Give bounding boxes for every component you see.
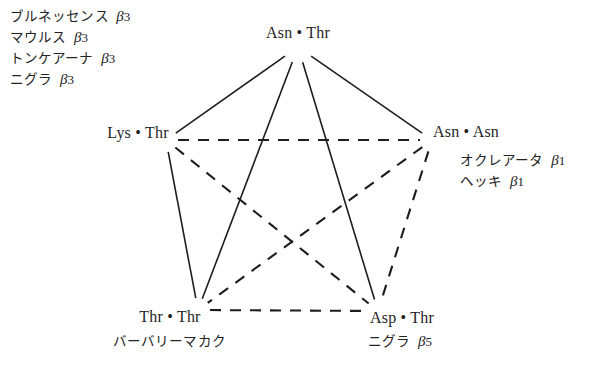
taxon-name: ブルネッセンス <box>10 8 109 24</box>
edge-bottom_left-to-bottom_right <box>210 310 366 311</box>
taxon-name: マウルス <box>10 29 66 45</box>
annotation-line: マウルス β3 <box>10 27 130 48</box>
annotation-line: トンケアーナ β3 <box>10 48 130 69</box>
taxon-name: ニグラ <box>368 333 410 349</box>
edge-left-to-bottom_right <box>175 148 368 304</box>
annotation-line: ニグラ β5 <box>368 331 432 352</box>
beta-number: 3 <box>109 51 116 66</box>
beta-symbol: β <box>116 8 123 24</box>
node-asn-asn: Asn • Asn <box>429 124 503 141</box>
taxon-name: ヘッキ <box>460 173 502 189</box>
beta-symbol: β <box>101 50 108 66</box>
annotation-bottom-left: バーバリーマカク <box>113 331 226 352</box>
edge-right-to-bottom_left <box>208 147 423 303</box>
annotation-top-left: ブルネッセンス β3マウルス β3トンケアーナ β3ニグラ β3 <box>10 6 130 90</box>
annotation-line: ニグラ β3 <box>10 69 130 90</box>
annotation-line: ブルネッセンス β3 <box>10 6 130 27</box>
beta-number: 3 <box>81 30 88 45</box>
beta-number: 3 <box>67 72 74 87</box>
diagram-root: Asn • Thr Lys • Thr Asn • Asn Thr • Thr … <box>0 0 615 366</box>
edge-right-to-bottom_right <box>382 151 429 299</box>
annotation-right: オクレアータ β1ヘッキ β1 <box>460 150 565 192</box>
edge-top-to-right <box>311 56 422 133</box>
edge-top-to-left <box>176 56 285 133</box>
beta-symbol: β <box>551 152 558 168</box>
beta-number: 5 <box>425 334 432 349</box>
beta-number: 1 <box>559 153 566 168</box>
taxon-name: バーバリーマカク <box>113 333 226 349</box>
edge-top-to-bottom_right <box>303 62 375 299</box>
node-lys-thr: Lys • Thr <box>103 125 172 142</box>
annotation-bottom-right: ニグラ β5 <box>368 331 432 352</box>
annotation-line: オクレアータ β1 <box>460 150 565 171</box>
edge-top-to-bottom_left <box>202 62 292 299</box>
beta-number: 3 <box>124 9 131 24</box>
annotation-line: バーバリーマカク <box>113 331 226 352</box>
node-asn-thr-top: Asn • Thr <box>262 25 334 42</box>
taxon-name: オクレアータ <box>460 152 544 168</box>
beta-number: 1 <box>517 174 524 189</box>
taxon-name: ニグラ <box>10 71 52 87</box>
annotation-line: ヘッキ β1 <box>460 171 565 192</box>
node-asp-thr: Asp • Thr <box>366 310 438 327</box>
taxon-name: トンケアーナ <box>10 50 94 66</box>
edge-left-to-bottom_left <box>168 152 196 298</box>
node-thr-thr: Thr • Thr <box>135 309 204 326</box>
